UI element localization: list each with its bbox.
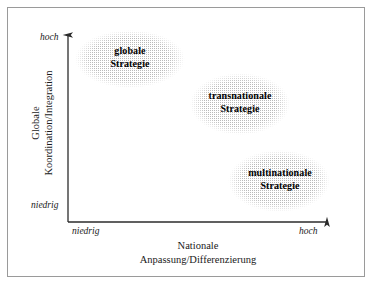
x-axis-title-line2: Anpassung/Differenzierung — [98, 254, 298, 266]
bubble-label-transnationale-line1: transnationale — [208, 90, 271, 101]
bubble-label-globale-line1: globale — [114, 45, 145, 56]
strategy-matrix-figure: hoch niedrig niedrig hoch Globale Koordi… — [0, 0, 374, 286]
x-axis-tick-high: hoch — [299, 226, 317, 237]
y-axis-title-line2: Koordination/Integration — [43, 48, 55, 198]
bubble-label-transnationale-line2: Strategie — [220, 103, 259, 114]
bubble-label-multinationale-line1: multinationale — [248, 167, 312, 178]
bubble-label-globale-line2: Strategie — [110, 58, 149, 69]
bubble-label-transnationale: transnationale Strategie — [185, 90, 295, 115]
bubble-label-multinationale-line2: Strategie — [260, 180, 299, 191]
y-axis-tick-low: niedrig — [31, 200, 58, 211]
y-axis-title-line1: Globale — [30, 58, 42, 188]
bubble-label-globale: globale Strategie — [80, 45, 180, 70]
bubble-label-multinationale: multinationale Strategie — [225, 167, 335, 192]
x-axis-tick-low: niedrig — [72, 226, 99, 237]
x-axis-title-line1: Nationale — [118, 240, 278, 252]
y-axis-tick-high: hoch — [40, 32, 58, 43]
